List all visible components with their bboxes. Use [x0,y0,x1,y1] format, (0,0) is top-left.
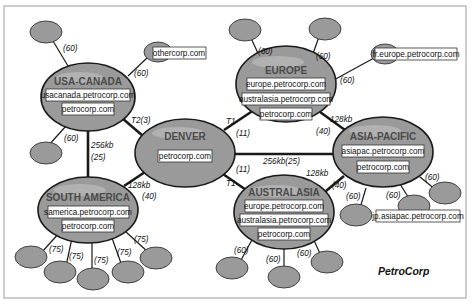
domain-label: samerica.petrocorp.com [44,208,132,217]
domain-label: petrocorp.com [62,222,115,231]
leaf-node-usa-bottom[interactable] [30,142,62,164]
leaf-node-samerica-4[interactable] [112,261,144,283]
cost-usa-leaf-bottom: (60) [64,134,79,143]
cost-samerica-leaf4: (75) [117,248,132,257]
cost-denver-australasia: (11) [236,165,250,174]
leaf-node-asia-1[interactable] [340,204,372,226]
site-title-usa-canada: USA-CANADA [54,76,122,87]
site-title-denver: DENVER [164,131,206,142]
speed-denver-australasia: T1 [226,179,236,188]
domain-label: petrocorp.com [357,163,410,172]
cost-samerica-leaf5: (75) [134,235,149,244]
domain-label: europe.petrocorp.com [246,80,326,89]
leaf-node-asia-3[interactable] [429,182,461,204]
domain-label: petrocorp.com [159,152,212,161]
speed-usa-denver: T2(3) [131,116,151,125]
site-usa-canada[interactable]: USA-CANADA usacanada.petrocorp.com petro… [41,63,136,131]
cost-samerica-leaf1: (75) [49,245,64,254]
leaf-node-australasia-1[interactable] [216,257,248,279]
brand-label: PetroCorp [378,265,430,277]
domain-label: australasia.petrocorp.com [237,216,331,225]
cost-asia-leaf2: (60) [386,191,401,200]
domain-label: petrocorp.com [258,230,311,239]
leaf-node-samerica-1[interactable] [15,246,47,268]
site-title-europe: EUROPE [265,65,308,76]
domain-label: usacanada.petrocorp.com [41,91,136,100]
speed-europe-asia: 128kb [330,115,353,124]
site-title-australasia: AUSTRALASIA [248,187,320,198]
site-asia-pacific[interactable]: ASIA-PACIFIC asiapac.petrocorp.com petro… [333,117,433,187]
cost-samerica-leaf3: (75) [94,256,109,265]
domain-label: australasia.petrocorp.com [239,95,333,104]
leaf-node-europe-2[interactable] [309,18,341,40]
cost-denver-europe: (11) [236,129,250,138]
cost-europe-leaf1: (60) [258,47,273,56]
leaf-node-europe-1[interactable] [229,19,261,41]
speed-australasia-asia: 128kb [306,169,329,178]
leaf-node-samerica-2[interactable] [44,261,76,283]
speed-denver-samerica: 128kb [128,181,151,190]
site-title-asia-pacific: ASIA-PACIFIC [350,131,416,142]
leaf-node-australasia-2[interactable] [268,266,300,288]
cost-samerica-leaf2: (75) [69,252,84,261]
domain-label: petrocorp.com [62,105,115,114]
domain-label: asiapac.petrocorp.com [342,147,425,156]
site-south-america[interactable]: SOUTH AMERICA samerica.petrocorp.com pet… [38,177,138,243]
site-title-south-america: SOUTH AMERICA [46,192,130,203]
site-denver[interactable]: DENVER petrocorp.com [135,119,235,187]
cost-usa-leaf-top: (60) [63,44,78,53]
cost-australasia-leaf2: (60) [266,255,281,264]
cost-asia-leaf1: (60) [346,192,361,201]
jp-asiapac-label: jp.asiapac.petrocorp.com [371,212,464,221]
domain-label: europe.petrocorp.com [244,202,324,211]
cost-europe-leaf2: (60) [316,52,331,61]
site-australasia[interactable]: AUSTRALASIA europe.petrocorp.com austral… [234,175,334,249]
leaf-node-usa-top[interactable] [30,21,62,43]
speed-usa-samerica: 256kb [90,141,114,150]
domain-label: petrocorp.com [260,110,313,119]
othercorp-label: othercorp.com [153,49,206,58]
cost-asia-leaf3: (60) [425,173,440,182]
leaf-node-samerica-5[interactable] [140,247,172,269]
cost-australasia-leaf3: (60) [297,249,312,258]
label-denver-asia: 256kb(25) [262,157,300,166]
cost-europe-asia: (40) [316,127,331,136]
cost-denver-samerica: (40) [142,192,157,201]
leaf-node-australasia-3[interactable] [311,251,343,273]
cost-usa-othercorp: (60) [134,69,149,78]
cost-usa-samerica: (25) [91,153,106,162]
petrocorp-network-diagram: USA-CANADA usacanada.petrocorp.com petro… [0,0,472,304]
cost-europe-fr: (60) [340,76,355,85]
cost-australasia-asia: (40) [332,181,347,190]
cost-australasia-leaf1: (60) [234,246,249,255]
leaf-node-samerica-3[interactable] [77,268,109,290]
speed-denver-europe: T1 [226,117,236,126]
fr-europe-label: fr.europe.petrocorp.com [373,50,460,59]
